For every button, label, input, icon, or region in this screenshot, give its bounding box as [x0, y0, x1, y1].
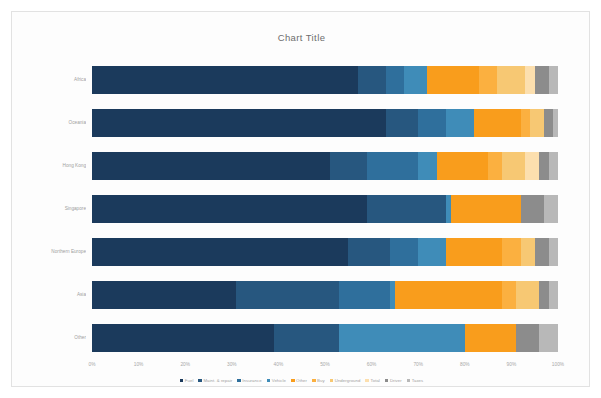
legend-item[interactable]: Taxes: [407, 378, 424, 383]
bar-segment[interactable]: [465, 324, 516, 352]
bar-row[interactable]: Other: [92, 324, 558, 352]
bar-segment[interactable]: [479, 66, 498, 94]
legend-label: Maint. & repair: [203, 378, 232, 383]
legend-item[interactable]: Other: [291, 378, 307, 383]
legend-item[interactable]: Underground: [330, 378, 361, 383]
chart-legend[interactable]: FuelMaint. & repairInsuranceVehicleOther…: [12, 378, 591, 383]
legend-label: Buy: [317, 378, 325, 383]
bar-segment[interactable]: [418, 238, 446, 266]
y-axis-label: Hong Kong: [20, 152, 86, 180]
x-axis-tick: 10%: [134, 362, 144, 367]
bar-segment[interactable]: [539, 281, 548, 309]
legend-label: Fuel: [185, 378, 194, 383]
legend-swatch-icon: [312, 379, 316, 383]
legend-label: Insurance: [242, 378, 261, 383]
bar-segment[interactable]: [92, 152, 330, 180]
bar-segment[interactable]: [390, 238, 418, 266]
y-axis-label: Northern Europe: [20, 238, 86, 266]
plot-area[interactable]: AfricaOceaniaHong KongSingaporeNorthern …: [92, 59, 558, 359]
bar-row[interactable]: Northern Europe: [92, 238, 558, 266]
bar-segment[interactable]: [330, 152, 367, 180]
bar-segment[interactable]: [348, 238, 390, 266]
x-axis: 0%10%20%30%40%50%60%70%80%90%100%: [92, 362, 558, 374]
legend-label: Taxes: [412, 378, 423, 383]
bar-segment[interactable]: [427, 66, 478, 94]
bar-segment[interactable]: [386, 109, 419, 137]
bar-segment[interactable]: [549, 238, 558, 266]
y-axis-label: Oceania: [20, 109, 86, 137]
bar-segment[interactable]: [521, 109, 530, 137]
bar-segment[interactable]: [497, 66, 525, 94]
bar-segment[interactable]: [92, 109, 386, 137]
bar-segment[interactable]: [521, 195, 544, 223]
chart-container[interactable]: Chart Title AfricaOceaniaHong KongSingap…: [11, 11, 590, 387]
bar-segment[interactable]: [539, 152, 548, 180]
screenshot-canvas: Chart Title AfricaOceaniaHong KongSingap…: [0, 0, 601, 398]
bar-segment[interactable]: [549, 281, 558, 309]
legend-item[interactable]: Total: [365, 378, 379, 383]
legend-swatch-icon: [407, 379, 411, 383]
bar-row[interactable]: Oceania: [92, 109, 558, 137]
bar-segment[interactable]: [488, 152, 502, 180]
bar-segment[interactable]: [92, 66, 358, 94]
bar-segment[interactable]: [92, 238, 348, 266]
bar-segment[interactable]: [502, 281, 516, 309]
legend-item[interactable]: Driver: [385, 378, 402, 383]
bar-segment[interactable]: [92, 281, 236, 309]
legend-item[interactable]: Fuel: [180, 378, 194, 383]
x-axis-tick: 80%: [460, 362, 470, 367]
bar-segment[interactable]: [535, 66, 549, 94]
bar-segment[interactable]: [446, 109, 474, 137]
legend-label: Driver: [390, 378, 402, 383]
bar-segment[interactable]: [367, 195, 446, 223]
bar-segment[interactable]: [274, 324, 339, 352]
legend-swatch-icon: [291, 379, 295, 383]
bar-segment[interactable]: [502, 238, 521, 266]
bar-segment[interactable]: [525, 66, 534, 94]
bar-segment[interactable]: [358, 66, 386, 94]
legend-item[interactable]: Buy: [312, 378, 325, 383]
bar-row[interactable]: Asia: [92, 281, 558, 309]
bar-segment[interactable]: [418, 109, 446, 137]
bar-segment[interactable]: [544, 195, 558, 223]
bar-segment[interactable]: [339, 281, 390, 309]
bar-segment[interactable]: [539, 324, 558, 352]
bar-segment[interactable]: [535, 238, 549, 266]
bar-segment[interactable]: [544, 109, 553, 137]
bar-segment[interactable]: [386, 66, 405, 94]
legend-item[interactable]: Vehicle: [267, 378, 286, 383]
bar-segment[interactable]: [502, 152, 525, 180]
bar-row[interactable]: Singapore: [92, 195, 558, 223]
bar-row[interactable]: Africa: [92, 66, 558, 94]
legend-item[interactable]: Insurance: [237, 378, 261, 383]
bar-row[interactable]: Hong Kong: [92, 152, 558, 180]
bar-segment[interactable]: [516, 324, 539, 352]
y-axis-label: Africa: [20, 66, 86, 94]
bar-segment[interactable]: [367, 152, 418, 180]
bar-segment[interactable]: [525, 152, 539, 180]
x-axis-tick: 0%: [89, 362, 96, 367]
bar-segment[interactable]: [549, 66, 558, 94]
bar-segment[interactable]: [530, 109, 544, 137]
legend-label: Underground: [335, 378, 361, 383]
legend-swatch-icon: [330, 379, 334, 383]
bar-segment[interactable]: [418, 152, 437, 180]
bar-segment[interactable]: [339, 324, 465, 352]
bar-segment[interactable]: [236, 281, 339, 309]
bar-segment[interactable]: [446, 238, 502, 266]
bar-segment[interactable]: [521, 238, 535, 266]
x-axis-tick: 40%: [274, 362, 284, 367]
legend-item[interactable]: Maint. & repair: [198, 378, 232, 383]
bar-segment[interactable]: [404, 66, 427, 94]
x-axis-tick: 30%: [227, 362, 237, 367]
bar-segment[interactable]: [474, 109, 521, 137]
bar-segment[interactable]: [451, 195, 521, 223]
bar-segment[interactable]: [549, 152, 558, 180]
bar-segment[interactable]: [437, 152, 488, 180]
bar-segment[interactable]: [553, 109, 558, 137]
x-axis-tick: 20%: [180, 362, 190, 367]
bar-segment[interactable]: [395, 281, 502, 309]
bar-segment[interactable]: [516, 281, 539, 309]
bar-segment[interactable]: [92, 195, 367, 223]
bar-segment[interactable]: [92, 324, 274, 352]
